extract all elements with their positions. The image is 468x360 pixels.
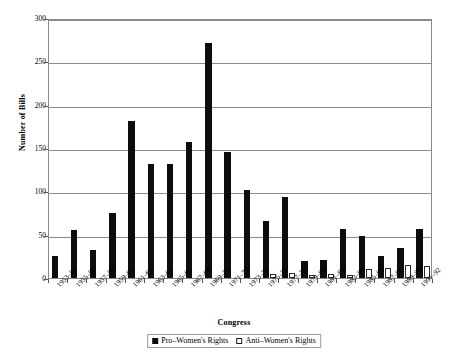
bar-group [183,20,202,278]
bar-group [260,20,279,278]
bar-group [414,20,433,278]
bar-group [279,20,298,278]
y-tick-label: 300 [16,15,46,23]
bar-group [241,20,260,278]
legend-item: Pro–Women's Rights [152,336,228,345]
legend-item: Anti–Women's Rights [236,336,315,345]
chart-title [0,0,468,2]
bar-pro-womens-rights [128,121,135,278]
bar-group [68,20,87,278]
bar-group [87,20,106,278]
bar-group [318,20,337,278]
legend-label: Pro–Women's Rights [161,336,228,345]
legend-swatch-pro-icon [152,338,158,344]
y-tick-label: 250 [16,58,46,66]
bar-group [203,20,222,278]
legend-swatch-anti-icon [236,338,242,344]
bar-group [356,20,375,278]
bar-group [107,20,126,278]
bar-group [375,20,394,278]
bar-pro-womens-rights [186,142,193,278]
y-axis-title: Number of Bills [18,63,27,183]
plot-area [48,19,432,279]
bar-pro-womens-rights [224,152,231,278]
bar-group [222,20,241,278]
bar-group [164,20,183,278]
bar-chart: Number of Bills 050100150200250300 1953–… [0,0,468,360]
y-tick-label: 0 [16,275,46,283]
bar-group [126,20,145,278]
bar-pro-womens-rights [52,256,59,278]
y-tick-label: 50 [16,232,46,240]
bar-group [395,20,414,278]
x-axis-title: Congress [0,318,468,327]
bar-group [49,20,68,278]
y-tick-label: 200 [16,102,46,110]
bar-pro-womens-rights [167,164,174,278]
bar-group [145,20,164,278]
y-tick-label: 150 [16,145,46,153]
x-tick-mark [48,279,49,283]
y-tick-label: 100 [16,188,46,196]
legend: Pro–Women's RightsAnti–Women's Rights [147,334,321,348]
bar-group [337,20,356,278]
bar-pro-womens-rights [148,164,155,278]
bar-pro-womens-rights [205,43,212,278]
legend-label: Anti–Women's Rights [245,336,315,345]
bar-group [299,20,318,278]
